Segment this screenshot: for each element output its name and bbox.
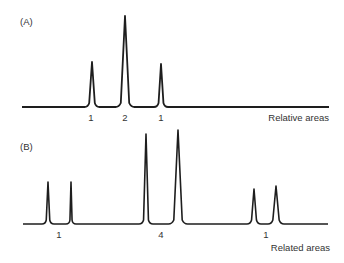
panel-b-caption: Related areas [271,243,330,253]
panel-a-area-label-2: 2 [122,113,127,123]
panel-a-tag: (A) [20,17,33,27]
chromatogram-traces [0,0,344,263]
trace-panel-a [22,16,329,107]
panel-a-area-label-1: 1 [88,113,93,123]
panel-b-area-label-3: 1 [263,230,268,240]
panel-b-area-label-1: 1 [56,230,61,240]
trace-panel-b [23,130,328,224]
panel-a-area-label-3: 1 [158,113,163,123]
panel-b-area-label-2: 4 [158,230,163,240]
chromatogram-figure: (A) 1 2 1 Relative areas (B) 1 4 1 Relat… [0,0,344,263]
panel-a-caption: Relative areas [268,113,329,123]
panel-b-tag: (B) [20,142,33,152]
